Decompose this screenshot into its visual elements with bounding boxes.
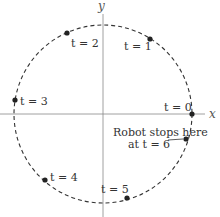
annotation-line2: at t = 6 [128,138,170,151]
label-t3: t = 3 [20,95,48,108]
x-axis-label: x [209,107,216,121]
label-t1: t = 1 [124,40,152,53]
label-t0: t = 0 [164,101,192,114]
point-t2 [64,30,69,35]
label-t5: t = 5 [101,183,129,196]
point-t5 [124,195,129,200]
annotation-arrow [168,139,183,140]
point-t3 [12,97,17,102]
y-axis-label: y [97,0,105,13]
label-t4: t = 4 [50,171,78,184]
point-t4 [42,177,47,182]
label-t2: t = 2 [71,37,99,50]
robot-circle-diagram: x y t = 0 t = 1 t = 2 t = 3 t = 4 t = 5 … [0,0,220,217]
